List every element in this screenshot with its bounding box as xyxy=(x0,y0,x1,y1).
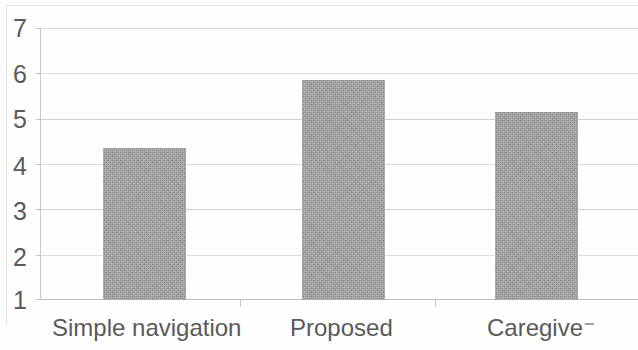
bar-simple-navigation xyxy=(103,148,186,300)
y-tick-1 xyxy=(36,299,41,300)
y-axis-tick-label-3: 3 xyxy=(6,199,34,224)
y-axis-tick-label-4: 4 xyxy=(6,154,34,179)
y-tick-6 xyxy=(36,73,41,74)
y-axis-tick-label-2: 2 xyxy=(6,245,34,270)
page-border-top xyxy=(6,5,638,6)
plot-area xyxy=(40,28,638,300)
category-tick-2 xyxy=(435,300,436,307)
y-axis-tick-label-6: 6 xyxy=(6,62,34,87)
bar-caregiver xyxy=(495,112,578,300)
gridline-7 xyxy=(40,28,638,29)
y-axis-tick-label-1: 1 xyxy=(6,288,34,313)
y-tick-5 xyxy=(36,119,41,120)
bar-proposed xyxy=(302,80,385,300)
y-axis-tick-label-7: 7 xyxy=(6,16,34,41)
y-axis-tick-label-5: 5 xyxy=(6,107,34,132)
y-tick-4 xyxy=(36,164,41,165)
y-tick-3 xyxy=(36,209,41,210)
y-tick-7 xyxy=(36,28,41,29)
x-axis-label-proposed: Proposed xyxy=(290,314,393,342)
x-axis-label-caregiver: Caregive⁻ xyxy=(487,314,638,342)
bar-chart: 7 6 5 4 3 2 1 Simple navigation Proposed xyxy=(0,0,638,350)
gridline-6 xyxy=(40,73,638,74)
x-axis-label-simple-navigation: Simple navigation xyxy=(52,314,241,342)
category-tick-1 xyxy=(240,300,241,307)
y-tick-2 xyxy=(36,255,41,256)
page-border-left xyxy=(6,5,7,325)
